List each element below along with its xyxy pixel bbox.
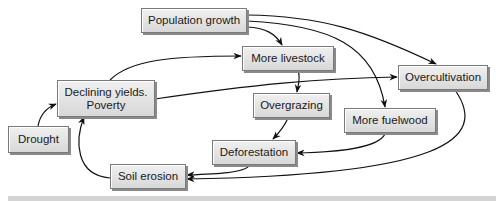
arrow-drought-to-yields [38,104,56,126]
node-overcultivation: Overcultivation [398,65,488,90]
node-label: Soil erosion [118,170,178,183]
node-more-livestock: More livestock [242,46,334,71]
node-label: Declining yields. [64,86,147,99]
node-drought: Drought [8,126,69,153]
node-population-growth: Population growth [141,8,247,33]
arrow-deforestation-to-erosion [187,165,250,175]
node-label: Overcultivation [405,71,481,84]
node-label-line2: Poverty [87,99,126,112]
node-label: More fuelwood [352,114,427,127]
node-label: More livestock [251,52,325,65]
node-overgrazing: Overgrazing [253,93,330,118]
node-label: Deforestation [220,146,288,159]
arrow-population-to-livestock [247,27,282,45]
causal-diagram: Population growth More livestock Overcul… [0,0,496,201]
bottom-gray-band [8,196,496,201]
node-label: Population growth [148,14,240,27]
node-declining-yields-poverty: Declining yields. Poverty [57,80,155,117]
arrow-yields-to-livestock [110,56,241,80]
arrow-fuelwood-to-deforestation [297,134,385,153]
node-label: Overgrazing [260,99,323,112]
node-more-fuelwood: More fuelwood [344,108,436,133]
node-label: Drought [18,133,59,146]
arrow-erosion-to-yields [79,117,110,178]
node-deforestation: Deforestation [212,140,296,165]
node-soil-erosion: Soil erosion [110,164,186,189]
arrow-overgrazing-to-deforestation [273,118,288,139]
